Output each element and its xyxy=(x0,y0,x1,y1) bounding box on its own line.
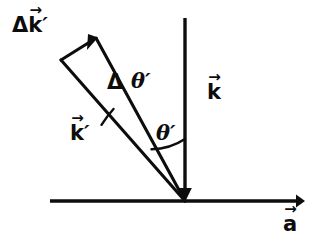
k-with-arrow: →k xyxy=(28,15,42,36)
k-with-arrow: →k xyxy=(70,123,84,144)
label-delta-k-prime: Δ→k′ xyxy=(12,14,48,36)
prime-mark: ′ xyxy=(145,68,151,93)
prime-mark: ′ xyxy=(84,120,90,145)
theta-letter: θ xyxy=(156,120,170,145)
delta-k-prime-vector xyxy=(61,34,98,60)
a-with-arrow: →a xyxy=(283,214,297,235)
k-letter: k xyxy=(70,123,84,144)
prime-mark: ′ xyxy=(42,12,48,37)
label-delta-theta-prime-theta: θ′ xyxy=(131,70,151,92)
label-theta-prime: θ′ xyxy=(156,122,176,144)
delta-k-prime-line xyxy=(61,43,89,61)
k-vector xyxy=(178,18,192,202)
delta-k-prime-arrowhead xyxy=(87,34,98,50)
a-letter: a xyxy=(283,214,297,235)
label-a: →a xyxy=(283,214,297,235)
k-with-arrow: →k xyxy=(207,82,221,103)
k-letter: k xyxy=(28,15,42,36)
label-delta-theta-prime-delta: Δ xyxy=(107,72,123,93)
label-k: →k xyxy=(207,82,221,103)
a-axis-arrowhead xyxy=(296,195,305,208)
label-k-prime: →k′ xyxy=(70,122,90,144)
k-letter: k xyxy=(207,82,221,103)
theta-letter: θ xyxy=(131,68,145,93)
a-axis xyxy=(50,195,305,208)
prime-mark: ′ xyxy=(170,120,176,145)
delta-symbol: Δ xyxy=(12,13,28,37)
